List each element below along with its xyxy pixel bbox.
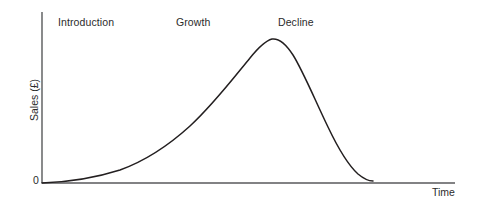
sales-curve-line	[42, 39, 373, 183]
stage-label-growth: Growth	[176, 16, 210, 28]
stage-label-introduction: Introduction	[58, 16, 114, 28]
x-axis-title: Time	[432, 186, 455, 198]
chart-plot-area	[0, 0, 480, 204]
stage-label-decline: Decline	[278, 16, 314, 28]
product-life-cycle-chart: Introduction Growth Decline Sales (£) Ti…	[0, 0, 480, 204]
origin-tick-label: 0	[33, 174, 39, 186]
y-axis-title: Sales (£)	[28, 40, 40, 160]
